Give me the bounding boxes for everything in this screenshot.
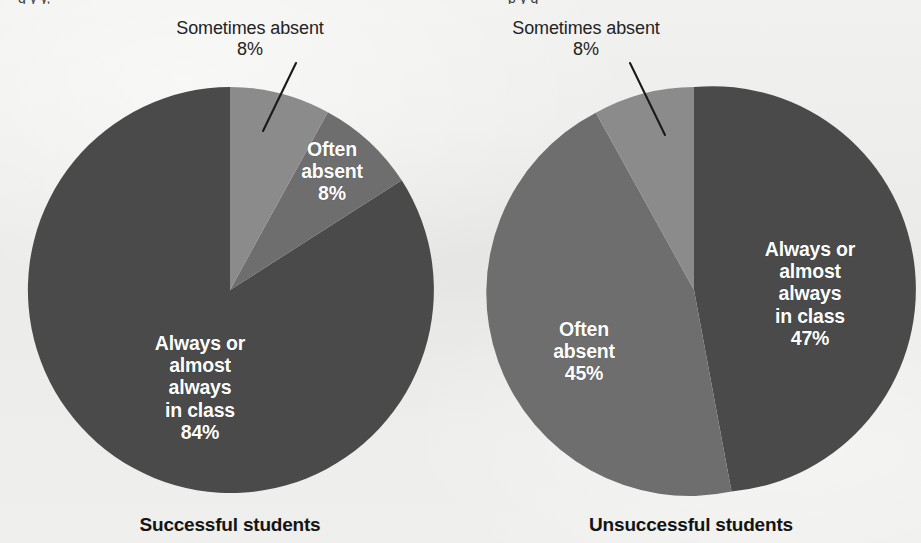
callout-left-sometimes-absent: Sometimes absent 8% <box>130 18 370 60</box>
slice-label-right-always-in-class: Always or almost always in class 47% <box>730 238 890 349</box>
callout-right-sometimes-absent: Sometimes absent 8% <box>466 18 706 60</box>
slice-label-left-often-absent: Often absent 8% <box>272 138 392 205</box>
caption-right-unsuccessful-students: Unsuccessful students <box>461 514 921 536</box>
slice-label-left-always-in-class: Always or almost always in class 84% <box>120 332 280 443</box>
pie-chart-figure: g y y, p y g <box>0 0 921 543</box>
slice-label-right-often-absent: Often absent 45% <box>524 318 644 385</box>
caption-left-successful-students: Successful students <box>0 514 460 536</box>
